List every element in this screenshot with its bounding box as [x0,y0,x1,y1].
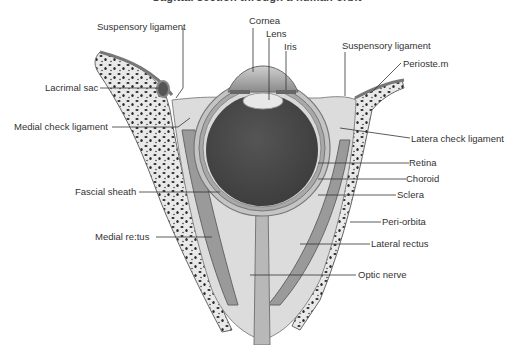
label-lateral-check-ligament: Latera check ligament [411,133,504,144]
label-suspensory-ligament-left: Suspensory ligament [97,21,186,32]
label-lacrimal-sac: Lacrimal sac [45,82,98,93]
optic-nerve-shape [254,200,270,345]
label-optic-nerve: Optic nerve [358,269,407,280]
label-periosteum: Perioste.m [403,58,448,69]
diagram-stage: Sagittal section through a human orbit [0,0,514,345]
label-medial-rectus: Medial re:tus [95,231,149,242]
label-sclera: Sclera [397,189,424,200]
vitreous-body [206,94,318,206]
lacrimal-sac-shape [157,81,169,97]
label-medial-check-ligament: Medial check ligament [14,121,108,132]
cornea-shape [228,66,298,92]
iris-left [230,90,250,94]
label-retina: Retina [409,157,436,168]
label-fascial-sheath: Fascial sheath [75,186,136,197]
label-lens: Lens [266,28,287,39]
iris-right [276,90,296,94]
label-peri-orbita: Peri-orbita [382,216,426,227]
label-suspensory-ligament-right: Suspensory ligament [342,40,431,51]
label-cornea: Cornea [249,15,280,26]
lens-shape [243,93,283,109]
label-iris: Iris [284,41,297,52]
label-lateral-rectus: Lateral rectus [371,238,429,249]
label-choroid: Choroid [406,173,439,184]
